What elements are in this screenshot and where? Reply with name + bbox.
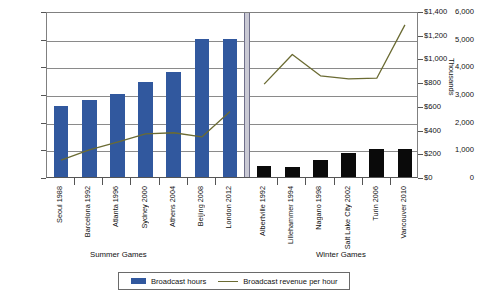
- x-tick-label-lillehammer-1994: Lillehammer 1994: [287, 186, 295, 244]
- y-tick-label-right: $0: [418, 174, 464, 182]
- legend-line-swatch-icon: [218, 281, 238, 282]
- x-tick-label-nagano-1998: Nagano 1998: [315, 186, 323, 230]
- x-tick-label-sydney-2000: Sydney 2000: [141, 186, 149, 229]
- legend-item-broadcast-revenue: Broadcast revenue per hour: [218, 277, 337, 286]
- x-tick-label-beijing-2008: Beijing 2008: [197, 186, 205, 226]
- y-tick-label-right: $800: [418, 79, 464, 87]
- x-tick-label-vancouver-2010: Vancouver 2010: [400, 186, 408, 239]
- x-tick-label-atlanta-1996: Atlanta 1996: [112, 186, 120, 227]
- line-series-broadcast-revenue: [47, 13, 419, 179]
- x-tick-mark: [187, 178, 188, 185]
- x-tick-mark: [390, 178, 391, 185]
- x-tick-mark: [305, 178, 306, 185]
- legend-bar-swatch-icon: [131, 278, 146, 284]
- x-tick-mark: [277, 178, 278, 185]
- y-tick-label-left: 4,000: [435, 63, 479, 71]
- x-tick-label-albertville-1992: Albertville 1992: [259, 186, 267, 236]
- chart-container: 01,0002,0003,0004,0005,0006,000 $0$200$4…: [0, 0, 479, 301]
- legend-label-broadcast-hours: Broadcast hours: [151, 277, 206, 286]
- chart-legend: Broadcast hours Broadcast revenue per ho…: [118, 272, 350, 290]
- x-tick-mark: [74, 178, 75, 185]
- group-label-winter: Winter Games: [316, 250, 366, 259]
- y-tick-label-right: $1,400: [418, 8, 464, 16]
- x-tick-mark: [102, 178, 103, 185]
- y-tick-label-right: $1,000: [418, 55, 464, 63]
- group-divider: [244, 13, 250, 177]
- x-tick-label-barcelona-1992: Barcelona 1992: [84, 186, 92, 237]
- x-tick-mark: [334, 178, 335, 185]
- y-tick-label-left: 3,000: [435, 91, 479, 99]
- y-tick-label-right: $1,200: [418, 32, 464, 40]
- x-tick-label-seoul-1988: Seoul 1988: [56, 186, 64, 223]
- x-tick-mark: [130, 178, 131, 185]
- y-tick-label-right: $200: [418, 150, 464, 158]
- group-label-summer: Summer Games: [90, 250, 147, 259]
- x-tick-mark: [159, 178, 160, 185]
- x-tick-mark: [215, 178, 216, 185]
- x-tick-mark: [362, 178, 363, 185]
- y-axis-right-title: Thousands: [447, 58, 456, 96]
- x-tick-label-salt-lake-city-2002: Salt Lake City 2002: [344, 186, 352, 249]
- legend-item-broadcast-hours: Broadcast hours: [131, 277, 206, 286]
- x-tick-label-london-2012: London 2012: [225, 186, 233, 229]
- legend-label-broadcast-revenue: Broadcast revenue per hour: [243, 277, 337, 286]
- line-path: [61, 111, 230, 160]
- plot-area: [46, 12, 418, 178]
- y-tick-label-right: $400: [418, 127, 464, 135]
- x-tick-label-athens-2004: Athens 2004: [169, 186, 177, 227]
- y-tick-label-right: $600: [418, 103, 464, 111]
- line-path: [264, 25, 405, 84]
- y-tick-label-left: 2,000: [435, 119, 479, 127]
- y-tick-mark-left: [41, 178, 46, 179]
- x-tick-label-turin-2006: Turin 2006: [372, 186, 380, 221]
